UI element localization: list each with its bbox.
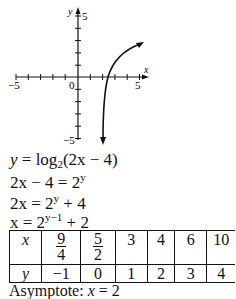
values-table: x 94 52 3 4 6 10 y −1 0 1 2 3 4 bbox=[9, 230, 235, 283]
x-value-cell: 10 bbox=[207, 231, 235, 265]
y-value-cell: 2 bbox=[147, 265, 174, 283]
x-axis-label: x bbox=[143, 64, 149, 75]
table-row-y: y −1 0 1 2 3 4 bbox=[10, 265, 236, 283]
x-value-cell: 52 bbox=[81, 231, 115, 265]
y-value-cell: 3 bbox=[175, 265, 207, 283]
x-header-cell: x bbox=[10, 231, 42, 265]
x-value-cell: 4 bbox=[147, 231, 174, 265]
x-value-cell: 6 bbox=[175, 231, 207, 265]
x-max-label: 5 bbox=[135, 79, 141, 91]
y-value-cell: −1 bbox=[42, 265, 81, 283]
equation-line-1: y = log2(2x − 4) bbox=[10, 151, 118, 169]
x-axis-arrow-icon bbox=[142, 75, 149, 80]
log-curve bbox=[103, 44, 140, 140]
y-axis-arrow-icon bbox=[76, 7, 81, 14]
y-value-cell: 1 bbox=[115, 265, 147, 283]
x-value-cell: 3 bbox=[115, 231, 147, 265]
x-min-label: −5 bbox=[8, 79, 20, 91]
y-min-label: −5 bbox=[63, 134, 75, 146]
curve-down-arrow-icon bbox=[100, 137, 106, 145]
y-header-cell: y bbox=[10, 265, 42, 283]
y-axis-label: y bbox=[67, 6, 73, 17]
log-function-graph: y 5 x −5 0 5 −5 bbox=[0, 0, 235, 150]
x-value-cell: 94 bbox=[42, 231, 81, 265]
asymptote-text: Asymptote: x = 2 bbox=[9, 282, 120, 299]
y-value-cell: 4 bbox=[207, 265, 235, 283]
y-value-cell: 0 bbox=[81, 265, 115, 283]
y-max-label: 5 bbox=[82, 10, 88, 22]
origin-label: 0 bbox=[69, 79, 75, 91]
equation-line-2: 2x − 4 = 2y bbox=[10, 174, 86, 192]
table-row-x: x 94 52 3 4 6 10 bbox=[10, 231, 236, 265]
